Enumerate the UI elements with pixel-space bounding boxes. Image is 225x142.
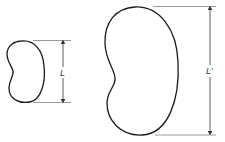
diagram-canvas: L L′ <box>0 0 225 142</box>
small-bean <box>7 41 44 103</box>
small-length-label: L <box>60 68 65 78</box>
large-length-label: L′ <box>206 66 213 76</box>
large-dimension: L′ <box>153 7 217 136</box>
large-bean <box>105 7 178 135</box>
